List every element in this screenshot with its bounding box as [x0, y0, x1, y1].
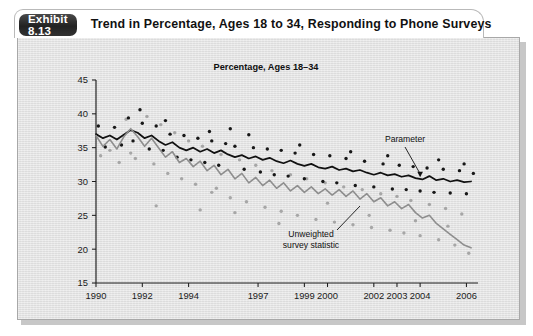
- panel-texture: [18, 38, 519, 319]
- exhibit-figure: Exhibit 8.13 Trend in Percentage, Ages 1…: [0, 0, 533, 336]
- exhibit-panel: [17, 37, 520, 320]
- exhibit-header-tab: Exhibit 8.13 Trend in Percentage, Ages 1…: [14, 9, 484, 38]
- exhibit-number-badge: Exhibit 8.13: [19, 14, 77, 36]
- exhibit-title: Trend in Percentage, Ages 18 to 34, Resp…: [91, 17, 492, 31]
